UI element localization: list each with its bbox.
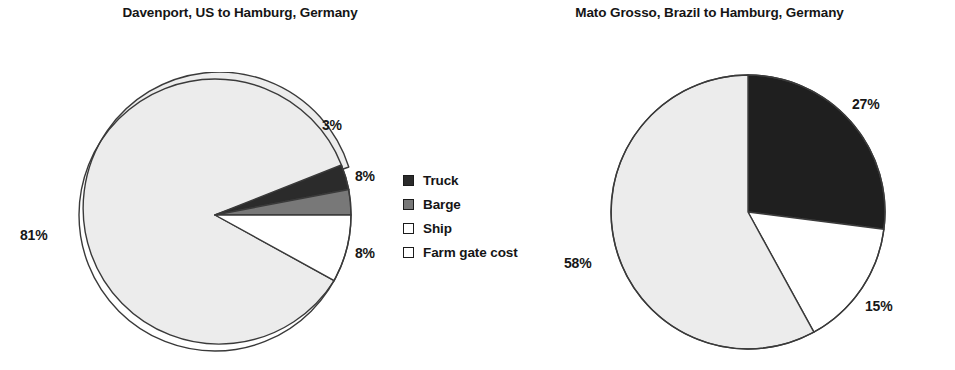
legend-swatch-ship (403, 223, 414, 234)
pct-label-barge-left: 8% (355, 168, 375, 184)
legend-label-truck: Truck (423, 173, 459, 188)
legend-label-barge: Barge (423, 197, 461, 212)
chart-panel-mato-grosso: Mato Grosso, Brazil to Hamburg, Germany … (480, 0, 955, 370)
chart-title-right: Mato Grosso, Brazil to Hamburg, Germany (472, 5, 947, 20)
pct-label-farm-gate-right: 58% (564, 255, 591, 271)
legend-label-ship: Ship (423, 221, 452, 236)
pct-label-ship-left: 8% (355, 245, 375, 261)
pct-label-farm-gate-left: 81% (20, 227, 47, 243)
pie-chart-mato-grosso (603, 67, 893, 357)
legend-swatch-barge (403, 199, 414, 210)
pie-chart-davenport (72, 72, 358, 358)
legend-swatch-farm-gate-cost (403, 247, 414, 258)
chart-title-left: Davenport, US to Hamburg, Germany (0, 5, 480, 20)
pct-label-truck-left: 3% (322, 117, 342, 133)
legend-swatch-truck (403, 175, 414, 186)
pct-label-ship-right: 15% (865, 298, 892, 314)
chart-panel-davenport: Davenport, US to Hamburg, Germany 3% 8% … (0, 0, 480, 370)
pct-label-truck-right: 27% (852, 96, 879, 112)
